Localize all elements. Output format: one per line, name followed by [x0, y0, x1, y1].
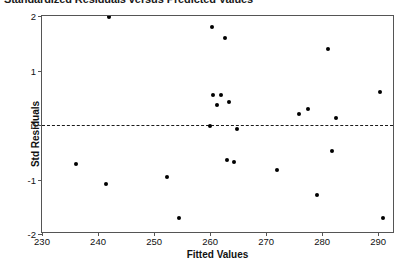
data-point	[211, 93, 215, 97]
x-tick-label: 250	[134, 237, 174, 247]
data-point	[223, 36, 227, 40]
data-point	[210, 25, 214, 29]
data-point	[107, 16, 111, 19]
data-point	[232, 160, 236, 164]
data-point	[315, 193, 319, 197]
data-point	[227, 100, 231, 104]
y-tick-mark	[38, 16, 42, 17]
data-point	[297, 112, 301, 116]
y-tick-mark	[38, 71, 42, 72]
x-tick-label: 290	[358, 237, 398, 247]
data-point	[330, 149, 334, 153]
y-tick-label: 2	[12, 12, 36, 21]
data-point	[219, 93, 223, 97]
y-tick-mark	[38, 180, 42, 181]
x-tick-label: 240	[78, 237, 118, 247]
x-tick-label: 280	[302, 237, 342, 247]
y-axis-label: Std Residuals	[30, 100, 41, 166]
data-point	[334, 116, 338, 120]
data-point	[165, 175, 169, 179]
data-point	[104, 182, 108, 186]
x-tick-label: 230	[22, 237, 62, 247]
data-point	[208, 124, 212, 128]
y-tick-label: -1	[12, 176, 36, 185]
data-point	[74, 162, 78, 166]
data-point	[225, 158, 229, 162]
data-point	[235, 127, 239, 131]
y-tick-label: 0	[12, 121, 36, 130]
data-point	[215, 103, 219, 107]
x-axis-label: Fitted Values	[41, 249, 394, 260]
data-point	[381, 216, 385, 220]
data-points-layer	[42, 16, 393, 232]
chart-title: Standardized Residuals versus Predicted …	[0, 0, 403, 5]
data-point	[378, 90, 382, 94]
plot-area: 210-1-2 230240250260270280290	[41, 15, 394, 233]
x-tick-label: 260	[190, 237, 230, 247]
data-point	[326, 47, 330, 51]
y-tick-mark	[38, 125, 42, 126]
scatter-plot-figure: Standardized Residuals versus Predicted …	[0, 0, 403, 267]
data-point	[177, 216, 181, 220]
y-tick-label: 1	[12, 67, 36, 76]
data-point	[275, 168, 279, 172]
x-tick-label: 270	[246, 237, 286, 247]
data-point	[306, 107, 310, 111]
